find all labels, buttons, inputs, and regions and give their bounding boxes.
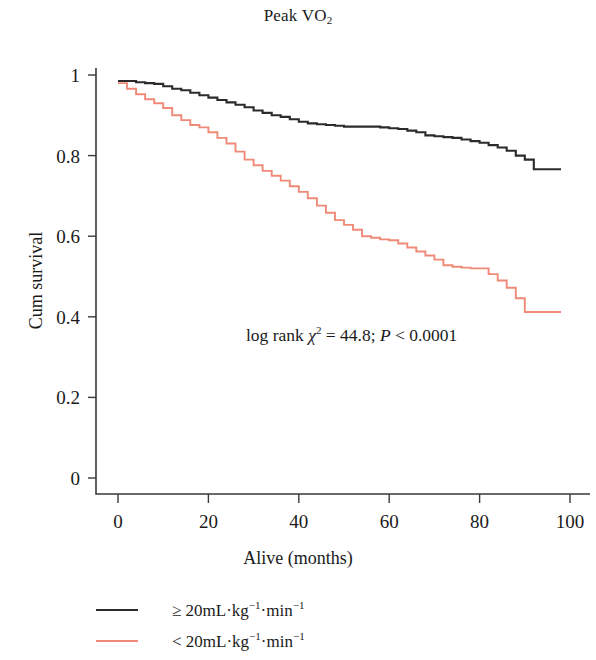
y-axis-label: Cum survival [26,201,47,361]
legend-label-low-sup1: −1 [249,630,261,642]
y-tick-label: 0.2 [56,387,80,408]
y-axis-ticks: 00.20.40.60.81 [56,65,96,489]
x-tick-label: 20 [199,511,218,532]
legend-label-low: < 20mL·kg−1·min−1 [172,630,305,652]
y-tick-label: 0.8 [56,146,80,167]
annotation-middle: = 44.8; [321,325,379,345]
x-tick-label: 100 [556,511,585,532]
x-tick-label: 0 [113,511,123,532]
legend-item-high: ≥ 20mL·kg−1·min−1 [96,594,516,625]
x-axis-ticks: 020406080100 [113,494,584,532]
plot-area: 00.20.40.60.81 020406080100 [0,0,596,540]
annotation-suffix: < 0.0001 [391,325,458,345]
chart-legend: ≥ 20mL·kg−1·min−1 < 20mL·kg−1·min−1 [96,594,516,656]
x-tick-label: 40 [289,511,308,532]
y-tick-label: 0.4 [56,307,80,328]
annotation-p-symbol: P [380,325,391,345]
legend-label-high-mid: ·min [261,600,293,619]
y-tick-label: 0.6 [56,226,80,247]
x-tick-label: 80 [470,511,489,532]
statistics-annotation: log rank χ2 = 44.8; P < 0.0001 [246,324,457,346]
x-tick-label: 60 [380,511,399,532]
axes-group [96,68,590,494]
legend-item-low: < 20mL·kg−1·min−1 [96,625,516,656]
legend-swatch-high [96,609,138,611]
legend-label-high-sup2: −1 [293,599,305,611]
curve-high-vo2 [118,81,561,169]
legend-label-high-base: ≥ 20mL·kg [172,600,249,619]
chart-figure: Peak VO2 00.20.40.60.81 020406080100 Ali… [0,0,596,660]
legend-label-low-mid: ·min [261,631,293,650]
x-axis-label: Alive (months) [0,548,596,569]
legend-label-high-sup1: −1 [249,599,261,611]
y-tick-label: 0 [71,468,81,489]
annotation-chi-symbol: χ [308,325,316,345]
curve-low-vo2 [118,83,561,312]
legend-swatch-low [96,640,138,642]
axis-lines [96,68,590,494]
annotation-prefix: log rank [246,325,308,345]
legend-label-low-base: < 20mL·kg [172,631,249,650]
legend-label-low-sup2: −1 [293,630,305,642]
survival-curves [118,81,561,312]
legend-label-high: ≥ 20mL·kg−1·min−1 [172,599,304,621]
y-tick-label: 1 [71,65,81,86]
